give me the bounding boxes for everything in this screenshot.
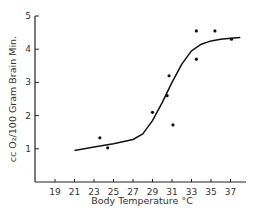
fitted-curve [75,38,241,151]
y-tick-label: 3 [25,77,31,87]
x-tick-label: 19 [49,187,61,197]
data-point [151,111,154,114]
data-point [98,136,101,139]
y-tick-label: 4 [25,44,31,54]
data-point [230,38,233,41]
data-point [106,146,109,149]
y-tick-label: 2 [25,111,31,121]
x-tick-label: 37 [225,187,236,197]
data-point [195,29,198,32]
y-axis: 12345 [25,11,39,182]
x-axis-title: Body Temperature °C [91,195,193,206]
data-point [171,123,174,126]
x-tick-label: 21 [69,187,80,197]
y-axis-title: cc O₂/100 Gram Brain Min. [7,36,18,162]
data-point [167,74,170,77]
data-point [195,58,198,61]
data-point [166,94,169,97]
x-tick-label: 35 [205,187,216,197]
data-points [98,29,233,149]
y-tick-label: 5 [25,11,31,21]
data-point [213,29,216,32]
y-tick-label: 1 [25,144,31,154]
chart: 12345 19212325272931333537 Body Temperat… [0,0,259,213]
